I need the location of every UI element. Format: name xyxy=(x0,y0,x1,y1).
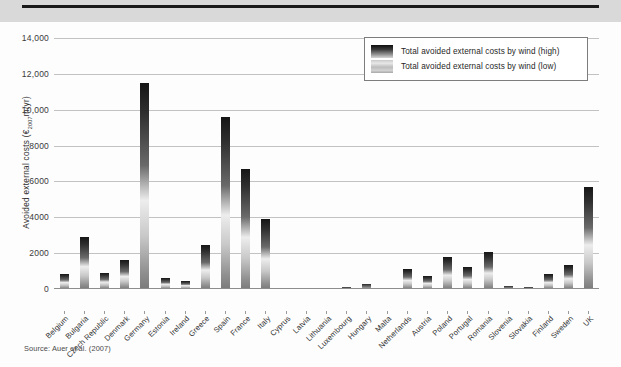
bar-slot[interactable] xyxy=(296,38,316,289)
bar-slot[interactable] xyxy=(216,38,236,289)
source-note: Source: Auer et al. (2007) xyxy=(24,344,111,353)
legend-item-low: Total avoided external costs by wind (lo… xyxy=(371,60,580,73)
bar[interactable] xyxy=(423,276,432,289)
bar[interactable] xyxy=(221,117,230,289)
header-rule xyxy=(22,5,599,8)
header-band xyxy=(0,0,621,22)
bar[interactable] xyxy=(403,269,412,289)
y-axis-title-subscript: 2007 xyxy=(26,116,32,129)
bar[interactable] xyxy=(443,257,452,289)
bar-slot[interactable] xyxy=(236,38,256,289)
bar-slot[interactable] xyxy=(276,38,296,289)
y-axis-tick-label: 12,000 xyxy=(22,69,49,79)
bar[interactable] xyxy=(60,274,69,289)
bar[interactable] xyxy=(100,273,109,289)
bar-slot[interactable] xyxy=(115,38,135,289)
bar[interactable] xyxy=(140,83,149,289)
bar-slot[interactable] xyxy=(74,38,94,289)
legend-label-low: Total avoided external costs by wind (lo… xyxy=(401,62,556,71)
bar[interactable] xyxy=(564,265,573,289)
y-axis-tick-label: 4000 xyxy=(29,212,49,222)
y-axis-tick-label: 2000 xyxy=(29,248,49,258)
y-axis-tick-label: 10,000 xyxy=(22,105,49,115)
y-axis-tick-label: 0 xyxy=(44,284,49,294)
y-axis-tick-label: 6000 xyxy=(29,176,49,186)
bar-slot[interactable] xyxy=(155,38,175,289)
bar[interactable] xyxy=(120,260,129,289)
legend-item-high: Total avoided external costs by wind (hi… xyxy=(371,45,580,58)
x-axis-tick-label: Estonia xyxy=(146,314,171,339)
bar[interactable] xyxy=(584,187,593,289)
y-axis-title: Avoided external costs (€2007m/yr) xyxy=(20,22,34,302)
bar-slot[interactable] xyxy=(175,38,195,289)
y-axis-tick-label: 8000 xyxy=(29,141,49,151)
x-axis-line xyxy=(54,288,599,289)
x-axis-tick-label: Greece xyxy=(187,314,212,339)
bar-slot[interactable] xyxy=(54,38,74,289)
gradient-light-swatch-icon xyxy=(371,60,393,73)
bar-slot[interactable] xyxy=(337,38,357,289)
x-axis-tick-label: Cyprus xyxy=(269,314,293,338)
y-axis-tick-label: 14,000 xyxy=(22,33,49,43)
bar[interactable] xyxy=(80,237,89,289)
bar[interactable] xyxy=(484,252,493,289)
bar[interactable] xyxy=(261,219,270,289)
bar[interactable] xyxy=(241,169,250,289)
bar-slot[interactable] xyxy=(316,38,336,289)
bar-slot[interactable] xyxy=(195,38,215,289)
bar-slot[interactable] xyxy=(256,38,276,289)
bar-slot[interactable] xyxy=(94,38,114,289)
x-axis-tick-label: UK xyxy=(581,314,595,328)
legend-label-high: Total avoided external costs by wind (hi… xyxy=(401,47,560,56)
gradient-dark-swatch-icon xyxy=(371,45,393,58)
bar[interactable] xyxy=(463,267,472,289)
bar-slot[interactable] xyxy=(135,38,155,289)
bar[interactable] xyxy=(544,274,553,289)
bar[interactable] xyxy=(201,245,210,289)
figure-container: Avoided external costs (€2007m/yr) 02000… xyxy=(0,22,621,367)
chart-legend: Total avoided external costs by wind (hi… xyxy=(364,37,588,81)
x-axis-tick-label: Austria xyxy=(410,314,434,338)
x-axis-tick-label: France xyxy=(228,314,252,338)
